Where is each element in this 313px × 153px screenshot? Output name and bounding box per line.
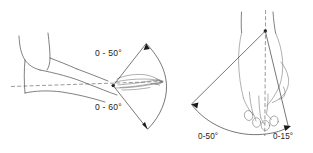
forearm-dorsal-outline-icon [241,12,275,33]
rom-fan-right [191,31,288,135]
figure-canvas: 0 - 50° 0 - 60° [0,0,313,153]
left-panel-group: 0 - 50° 0 - 60° [11,33,167,129]
right-left-rom-label: 0-50° [198,132,218,141]
left-lower-rom-label: 0 - 60° [95,102,122,112]
forearm-outline-icon [19,33,117,102]
wrist-range-of-motion-figure: 0 - 50° 0 - 60° [0,0,313,153]
midline-axis-dashed-icon [265,10,266,136]
right-right-rom-label: 0-15° [273,132,293,141]
left-upper-rom-label: 0 - 50° [95,48,122,58]
hand-lateral-outline-icon [115,74,163,90]
hand-dorsal-outline-icon [239,33,289,131]
right-panel-group: 0-50° 0-15° [191,10,293,141]
radial-deviation-arrow [284,125,291,131]
